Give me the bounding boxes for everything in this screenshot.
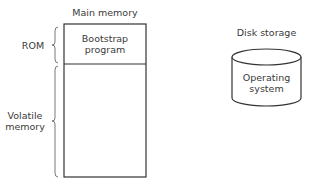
os-line2: system (232, 83, 301, 94)
volatile-brace (52, 66, 58, 177)
volatile-line1: Volatile (2, 110, 48, 121)
rom-label: ROM (18, 40, 48, 51)
operating-system-label: Operating system (232, 72, 301, 94)
volatile-memory-label: Volatile memory (2, 110, 48, 132)
bootstrap-program-label: Bootstrap program (64, 33, 146, 55)
main-memory-title: Main memory (64, 7, 146, 18)
rom-brace (52, 27, 58, 63)
os-line1: Operating (232, 72, 301, 83)
volatile-line2: memory (2, 121, 48, 132)
disk-storage-title: Disk storage (230, 27, 303, 38)
bootstrap-line1: Bootstrap (64, 33, 146, 44)
bootstrap-line2: program (64, 44, 146, 55)
